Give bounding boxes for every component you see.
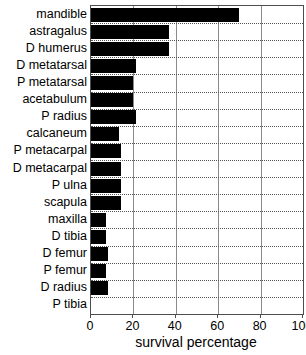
bar-row	[91, 59, 303, 73]
x-tick-mark-40	[175, 314, 176, 318]
bar-row	[91, 281, 303, 295]
bar	[91, 213, 106, 227]
bar-row	[91, 110, 303, 124]
bar-chart: mandibleastragalusD humerusD metatarsalP…	[0, 0, 306, 355]
x-tick-mark-100	[302, 314, 303, 318]
x-tick-label-20: 20	[112, 319, 152, 333]
plot-area	[90, 5, 304, 315]
y-axis-label: scapula	[0, 195, 87, 209]
bar-row	[91, 127, 303, 141]
y-axis-label: D radius	[0, 280, 87, 294]
y-axis-label: astragalus	[0, 24, 87, 38]
bar	[91, 179, 121, 193]
y-axis-label: maxilla	[0, 212, 87, 226]
x-tick-label-0: 0	[70, 319, 110, 333]
bar-row	[91, 264, 303, 278]
bar	[91, 247, 108, 261]
x-tick-label-80: 80	[240, 319, 280, 333]
y-axis-label: P radius	[0, 109, 87, 123]
bar	[91, 230, 106, 244]
bar	[91, 144, 121, 158]
bar	[91, 196, 121, 210]
x-tick-label-40: 40	[155, 319, 195, 333]
bar	[91, 25, 169, 39]
bar	[91, 76, 133, 90]
x-tick-mark-20	[132, 314, 133, 318]
x-tick-mark-60	[217, 314, 218, 318]
y-axis-label: D femur	[0, 246, 87, 260]
bar	[91, 93, 133, 107]
bar	[91, 42, 169, 56]
bar-row	[91, 93, 303, 107]
bar	[91, 110, 136, 124]
y-axis-label: P metacarpal	[0, 143, 87, 157]
y-axis-label: mandible	[0, 7, 87, 21]
bar	[91, 162, 121, 176]
y-axis-label: D tibia	[0, 229, 87, 243]
bar-row	[91, 230, 303, 244]
bar-row	[91, 42, 303, 56]
bar	[91, 8, 239, 22]
y-axis-label: P tibia	[0, 297, 87, 311]
bar-row	[91, 25, 303, 39]
x-tick-label-100: 100	[282, 319, 306, 333]
bar-row	[91, 144, 303, 158]
y-axis-label: D metatarsal	[0, 58, 87, 72]
bar-row	[91, 247, 303, 261]
bar	[91, 281, 108, 295]
x-tick-label-60: 60	[197, 319, 237, 333]
y-axis-label: D humerus	[0, 41, 87, 55]
bar-row	[91, 162, 303, 176]
bar	[91, 264, 106, 278]
bar-row	[91, 76, 303, 90]
bar-row	[91, 213, 303, 227]
y-axis-label: D metacarpal	[0, 161, 87, 175]
y-axis-label: acetabulum	[0, 92, 87, 106]
bar-row	[91, 196, 303, 210]
y-axis-label: calcaneum	[0, 126, 87, 140]
bar	[91, 59, 136, 73]
x-axis-title: survival percentage	[90, 334, 302, 351]
x-tick-mark-80	[260, 314, 261, 318]
y-axis-label: P femur	[0, 263, 87, 277]
x-tick-mark-0	[90, 314, 91, 318]
bar-row	[91, 298, 303, 312]
bar-row	[91, 8, 303, 22]
bar	[91, 127, 119, 141]
y-axis-label: P metatarsal	[0, 75, 87, 89]
y-axis-label: P ulna	[0, 178, 87, 192]
bar-row	[91, 179, 303, 193]
